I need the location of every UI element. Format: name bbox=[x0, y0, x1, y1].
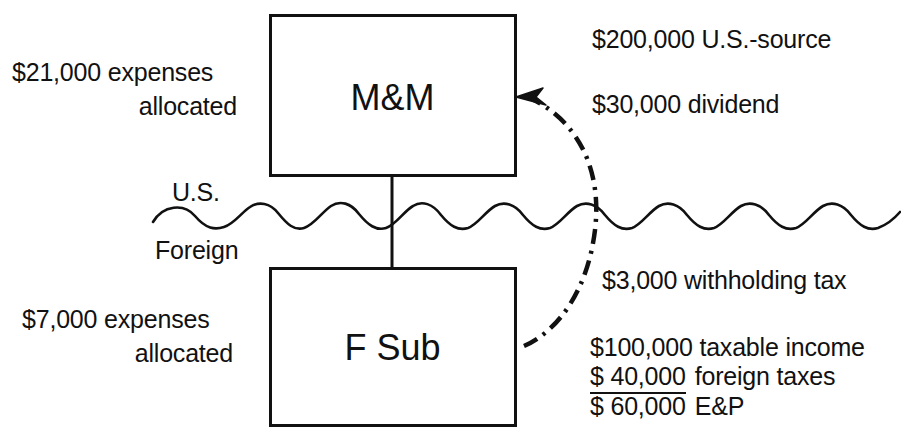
foreign-taxes-amount: $ 40,000 bbox=[590, 362, 686, 394]
subsidiary-entity-name: F Sub bbox=[270, 328, 515, 368]
withholding-tax-label: $3,000 withholding tax bbox=[602, 266, 846, 295]
ep-amount: $ 60,000 bbox=[590, 392, 686, 421]
parent-entity-name: M&M bbox=[270, 78, 515, 118]
subsidiary-expenses-line-1: $7,000 expenses bbox=[0, 305, 233, 334]
foreign-taxes-row: $ 40,000foreign taxes bbox=[590, 362, 835, 394]
border-label-foreign: Foreign bbox=[155, 236, 238, 265]
dividend-label: $30,000 dividend bbox=[592, 90, 779, 119]
ep-label-text: E&P bbox=[695, 392, 744, 420]
border-label-us: U.S. bbox=[172, 178, 220, 207]
foreign-taxes-label-text: foreign taxes bbox=[695, 362, 836, 390]
tax-diagram-canvas: M&M F Sub U.S. Foreign $21,000 expenses … bbox=[0, 0, 901, 442]
parent-expenses-line-1: $21,000 expenses bbox=[0, 58, 237, 87]
us-source-income-label: $200,000 U.S.-source bbox=[592, 25, 831, 54]
ep-row: $ 60,000E&P bbox=[590, 392, 744, 421]
parent-expenses-line-2: allocated bbox=[0, 92, 237, 121]
diagram-text-layer: M&M F Sub U.S. Foreign $21,000 expenses … bbox=[0, 0, 901, 442]
taxable-income-label: $100,000 taxable income bbox=[590, 333, 865, 362]
subsidiary-expenses-line-2: allocated bbox=[0, 339, 233, 368]
